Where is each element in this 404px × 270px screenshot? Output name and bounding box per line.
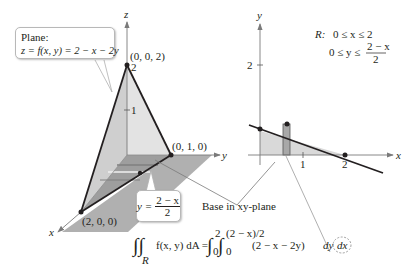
boundary-denominator: 2 [165, 207, 171, 218]
z-tick-label-1: 1 [131, 104, 137, 116]
x-axis-label-2d: x [395, 149, 401, 161]
svg-text:dy: dy [323, 239, 334, 251]
boundary-numerator: 2 − x [155, 195, 180, 207]
point-on-boundary-3d [138, 171, 142, 175]
svg-text:0 ≤ x ≤ 2: 0 ≤ x ≤ 2 [333, 28, 373, 40]
svg-text:f(x, y) dA =: f(x, y) dA = [156, 239, 208, 252]
svg-text:2 − x: 2 − x [367, 40, 390, 52]
region-definition: R: 0 ≤ x ≤ 2 0 ≤ y ≤ 2 − x 2 [314, 28, 390, 65]
z-tick-label-2: 2 [131, 61, 137, 73]
svg-text:(2 − x − 2y): (2 − x − 2y) [252, 239, 305, 252]
point-strip-top [285, 122, 290, 127]
point-x-intercept [343, 153, 348, 158]
y-axis-label-2d: y [256, 9, 262, 21]
svg-text:0: 0 [226, 245, 232, 257]
point-0-0-2 [125, 63, 130, 68]
plane-callout-equation: z = f(x, y) = 2 − x − 2y [21, 44, 109, 58]
boundary-lhs: y = [137, 200, 152, 212]
x-tick-label-2: 2 [342, 158, 348, 170]
plane-callout-title: Plane: [21, 30, 109, 44]
strip-leader-line [286, 156, 330, 252]
svg-text:0 ≤ y ≤: 0 ≤ y ≤ [329, 46, 360, 58]
integral-equation: ∫∫ R f(x, y) dA = ∫ 2 0 ∫ (2 − x)/2 0 (2… [131, 227, 351, 266]
svg-text:R: R [141, 254, 149, 266]
plane-callout: Plane: z = f(x, y) = 2 − x − 2y [15, 27, 115, 59]
svg-text:R:: R: [314, 28, 325, 40]
y-tick-label-2: 2 [247, 59, 253, 71]
plane-callout-pointer [95, 60, 112, 92]
point-label-0-1-0: (0, 1, 0) [172, 140, 207, 153]
point-label-2-0-0: (2, 0, 0) [82, 215, 117, 228]
point-2-0-0 [79, 210, 84, 215]
boundary-callout: y = 2 − x 2 [136, 190, 181, 222]
svg-text:dx: dx [337, 239, 348, 251]
x-tick-label-1: 1 [300, 158, 306, 170]
z-axis-label: z [123, 8, 129, 20]
point-0-1-0 [169, 153, 174, 158]
svg-text:2: 2 [373, 53, 379, 65]
x-axis-label-3d: x [48, 226, 54, 238]
y-axis-label-3d: y [221, 149, 227, 161]
region-r [260, 131, 345, 155]
svg-text:∫: ∫ [216, 234, 225, 258]
base-label: Base in xy-plane [202, 200, 276, 212]
point-y-intercept [258, 127, 263, 132]
point-label-0-0-2: (0, 0, 2) [130, 50, 165, 63]
